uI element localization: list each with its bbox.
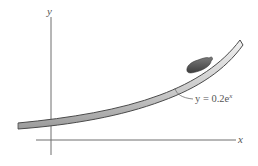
y-axis-label: y: [46, 5, 52, 17]
equation-exponent: x: [228, 92, 233, 100]
diagram-canvas: y x y = 0.2ex: [0, 0, 258, 166]
curve-track: [18, 40, 243, 129]
equation-base: y = 0.2e: [195, 93, 230, 104]
curve-equation-label: y = 0.2ex: [195, 92, 233, 104]
x-axis-label: x: [237, 133, 243, 145]
